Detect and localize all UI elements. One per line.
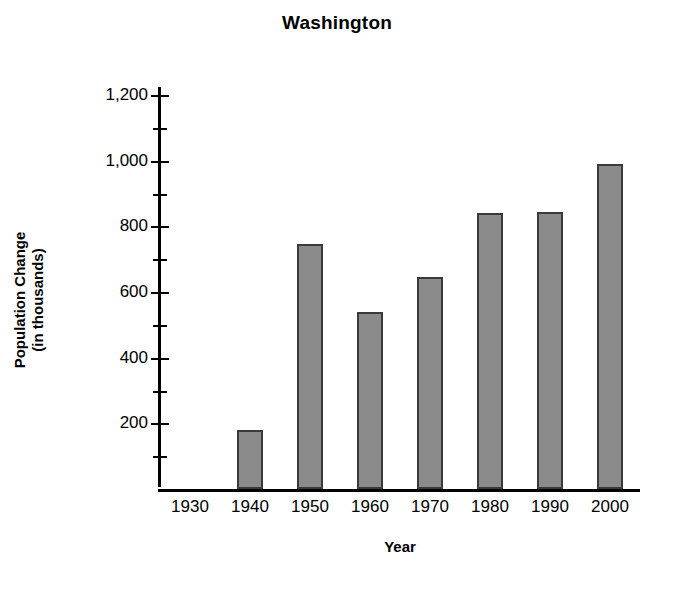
x-axis-line: [158, 489, 640, 492]
x-tick-label: 1950: [291, 497, 329, 517]
y-tick-label: 200: [120, 413, 148, 433]
x-tick-label: 1980: [471, 497, 509, 517]
y-tick-label: 1,200: [105, 85, 148, 105]
bar: [417, 277, 443, 489]
x-tick-label: 1940: [231, 497, 269, 517]
y-axis-title-line2: (in thousands): [29, 232, 47, 369]
x-tick-label: 2000: [591, 497, 629, 517]
y-tick-mark: [151, 358, 169, 360]
y-minor-tick-mark: [153, 325, 167, 327]
bar: [237, 430, 263, 489]
y-minor-tick-mark: [153, 194, 167, 196]
bar: [357, 312, 383, 489]
bar: [297, 244, 323, 489]
y-tick-mark: [151, 423, 169, 425]
y-axis-title: Population Change (in thousands): [6, 150, 52, 450]
y-tick-mark: [151, 226, 169, 228]
y-tick-label: 800: [120, 216, 148, 236]
x-axis-title: Year: [160, 538, 640, 555]
bar: [597, 164, 623, 489]
bar-chart: Washington Population Change (in thousan…: [0, 0, 674, 601]
y-axis-title-line1: Population Change: [11, 232, 28, 369]
x-tick-label: 1960: [351, 497, 389, 517]
x-tick-label: 1930: [171, 497, 209, 517]
y-minor-tick-mark: [153, 391, 167, 393]
bar: [477, 213, 503, 489]
chart-title: Washington: [0, 12, 674, 34]
y-tick-mark: [151, 161, 169, 163]
y-tick-mark: [151, 292, 169, 294]
x-tick-label: 1990: [531, 497, 569, 517]
y-minor-tick-mark: [153, 259, 167, 261]
x-tick-label: 1970: [411, 497, 449, 517]
y-tick-label: 400: [120, 348, 148, 368]
y-minor-tick-mark: [153, 456, 167, 458]
y-minor-tick-mark: [153, 128, 167, 130]
plot-area: 2004006008001,0001,200 19301940195019601…: [160, 95, 640, 489]
y-tick-label: 600: [120, 282, 148, 302]
y-tick-label: 1,000: [105, 151, 148, 171]
y-tick-mark: [151, 95, 169, 97]
bar: [537, 212, 563, 489]
y-axis-line: [158, 87, 161, 487]
